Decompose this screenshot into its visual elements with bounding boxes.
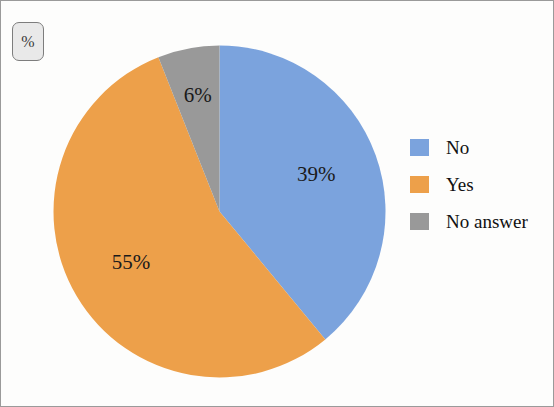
pie-plot-area: 39%55%6%: [53, 45, 386, 378]
pie-slice-data-label: 55%: [112, 250, 150, 274]
legend-item-label: Yes: [446, 174, 474, 196]
pie-svg: 39%55%6%: [53, 45, 386, 378]
legend-item-no-answer[interactable]: No answer: [410, 203, 545, 240]
legend-swatch-icon: [410, 176, 429, 193]
pie-slice-data-label: 39%: [297, 162, 336, 186]
legend-swatch-icon: [410, 139, 429, 156]
legend-swatch-icon: [410, 213, 429, 230]
pie-slice-group: [54, 46, 386, 378]
legend-item-yes[interactable]: Yes: [410, 166, 545, 203]
percent-unit-badge: %: [12, 22, 44, 61]
pie-chart-figure: % 39%55%6% No Yes No answer: [0, 0, 554, 407]
percent-unit-label: %: [21, 33, 34, 51]
pie-slice-data-label: 6%: [184, 83, 212, 107]
legend-item-no[interactable]: No: [410, 129, 545, 166]
legend-item-label: No: [446, 137, 469, 159]
legend-item-label: No answer: [446, 211, 528, 233]
chart-legend: No Yes No answer: [410, 129, 545, 240]
